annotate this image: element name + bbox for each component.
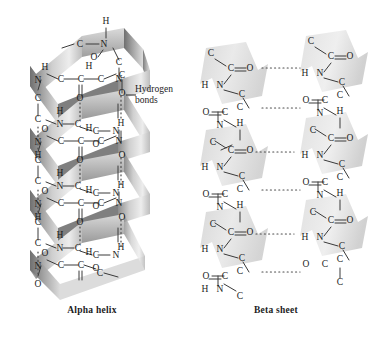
atom-O: O xyxy=(77,93,84,103)
atom-N: N xyxy=(57,243,64,253)
atom-H: H xyxy=(302,232,309,242)
atom-O: O xyxy=(42,124,49,134)
atom-C: C xyxy=(237,291,243,301)
atom-C: C xyxy=(310,207,316,217)
atom-H: H xyxy=(337,106,344,116)
atom-H: H xyxy=(302,68,309,78)
atom-O: O xyxy=(77,217,84,227)
atom-C: C xyxy=(58,260,64,270)
atom-H: H xyxy=(118,242,125,252)
atom-N: N xyxy=(217,80,224,90)
atom-C: C xyxy=(337,172,343,182)
atom-O: O xyxy=(203,107,210,117)
protein-structure-figure: H C N O C C H N C C H C N O C O C N H C … xyxy=(0,0,368,343)
atom-C: C xyxy=(75,243,81,253)
atom-H: H xyxy=(86,61,93,71)
atom-O: O xyxy=(119,88,126,98)
atom-C: C xyxy=(228,63,234,73)
atom-N: N xyxy=(217,284,224,294)
atom-O: O xyxy=(347,133,354,143)
atom-N: N xyxy=(317,150,324,160)
atom-N: N xyxy=(35,261,42,271)
atom-N: N xyxy=(57,181,64,191)
atom-H: H xyxy=(337,188,344,198)
atom-O: O xyxy=(303,95,310,105)
atom-C: C xyxy=(328,133,334,143)
atom-C: C xyxy=(210,219,216,229)
atom-N: N xyxy=(57,119,64,129)
atom-C: C xyxy=(237,184,243,194)
atom-O: O xyxy=(203,271,210,281)
atom-O: O xyxy=(119,212,126,222)
atom-C: C xyxy=(35,176,41,186)
atom-C: C xyxy=(322,95,328,105)
atom-C: C xyxy=(339,241,345,251)
atom-C: C xyxy=(237,102,243,112)
hydrogen-bonds-annotation: Hydrogen bonds xyxy=(135,84,173,106)
atom-C: C xyxy=(98,74,104,84)
beta-sheet-caption: Beta sheet xyxy=(184,305,368,315)
atom-N: N xyxy=(317,232,324,242)
atom-N: N xyxy=(116,198,123,208)
atom-H: H xyxy=(103,16,110,26)
atom-C: C xyxy=(337,277,343,287)
atom-H: H xyxy=(237,118,244,128)
atom-H: H xyxy=(202,284,209,294)
atom-C: C xyxy=(93,250,99,260)
atom-C: C xyxy=(97,268,103,278)
atom-C: C xyxy=(239,89,245,99)
atom-C: C xyxy=(237,266,243,276)
atom-H: H xyxy=(57,168,64,178)
atom-C: C xyxy=(328,215,334,225)
atom-O: O xyxy=(203,189,210,199)
atom-C: C xyxy=(93,126,99,136)
atom-C: C xyxy=(35,114,41,124)
hydrogen-bonds-label-line1: Hydrogen xyxy=(135,84,173,95)
atom-C: C xyxy=(310,125,316,135)
atom-C: C xyxy=(78,136,84,146)
atom-C: C xyxy=(239,253,245,263)
atom-H: H xyxy=(57,106,64,116)
atom-O: O xyxy=(77,155,84,165)
atom-C: C xyxy=(35,155,41,165)
atom-C: C xyxy=(77,39,83,49)
atom-C: C xyxy=(337,254,343,264)
atom-H: H xyxy=(86,247,93,257)
atom-C: C xyxy=(98,136,104,146)
atom-N: N xyxy=(317,190,324,200)
atom-N: N xyxy=(317,108,324,118)
atom-C: C xyxy=(35,238,41,248)
atom-C: C xyxy=(339,159,345,169)
atom-C: C xyxy=(98,198,104,208)
atom-N: N xyxy=(116,74,123,84)
atom-O: O xyxy=(347,51,354,61)
atom-C: C xyxy=(58,198,64,208)
atom-N: N xyxy=(217,120,224,130)
atom-O: O xyxy=(42,186,49,196)
atom-N: N xyxy=(217,162,224,172)
atom-N: N xyxy=(317,68,324,78)
atom-C: C xyxy=(35,93,41,103)
atom-O: O xyxy=(347,215,354,225)
atom-H: H xyxy=(118,118,125,128)
atom-O: O xyxy=(35,279,42,289)
atom-N: N xyxy=(101,39,108,49)
atom-C: C xyxy=(308,36,314,46)
atom-C: C xyxy=(208,48,214,58)
atom-C: C xyxy=(222,189,228,199)
atom-C: C xyxy=(222,107,228,117)
atom-H: H xyxy=(302,150,309,160)
atom-O: O xyxy=(247,145,254,155)
atom-O: O xyxy=(247,227,254,237)
atom-H: H xyxy=(86,185,93,195)
atom-N: N xyxy=(35,199,42,209)
atom-H: H xyxy=(86,123,93,133)
atom-H: H xyxy=(202,80,209,90)
atom-C: C xyxy=(210,137,216,147)
atom-O: O xyxy=(119,150,126,160)
atom-C: C xyxy=(58,74,64,84)
atom-C: C xyxy=(322,177,328,187)
hydrogen-bonds-label-line2: bonds xyxy=(135,95,173,106)
atom-C: C xyxy=(228,227,234,237)
atom-C: C xyxy=(78,198,84,208)
